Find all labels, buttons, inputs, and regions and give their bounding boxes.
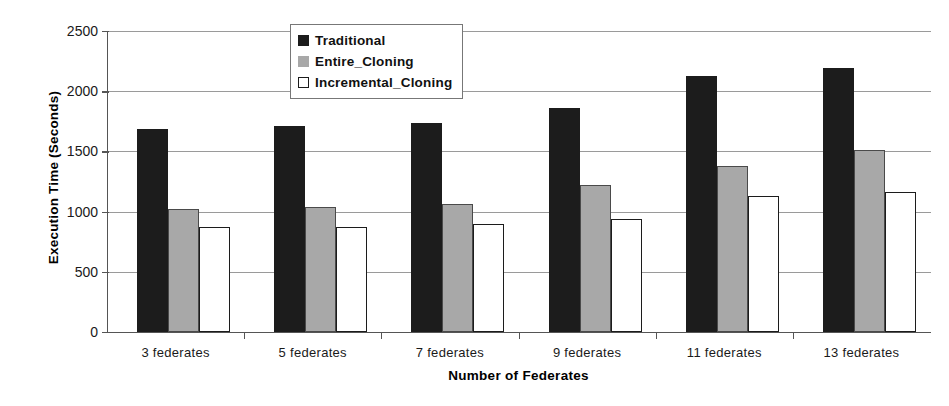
legend-item-label: Incremental_Cloning: [315, 75, 452, 90]
bar: [885, 192, 916, 332]
y-tick-label: 1000: [46, 205, 98, 219]
x-tick-mark: [656, 332, 657, 339]
bar: [854, 150, 885, 332]
x-axis-tick-labels: 3 federates5 federates7 federates9 feder…: [107, 345, 930, 360]
bar-group: [657, 31, 794, 332]
x-tick-mark: [519, 332, 520, 339]
bar-groups: [108, 31, 931, 332]
y-tick-label: 0: [46, 325, 98, 339]
x-tick-mark: [244, 332, 245, 339]
x-tick-label: 3 federates: [107, 345, 244, 360]
bar: [611, 219, 642, 332]
bar: [748, 196, 779, 332]
bar: [686, 76, 717, 332]
legend-item-label: Traditional: [315, 33, 385, 48]
bar-chart-figure: Execution Time (Seconds) 2500 2000 1500 …: [0, 0, 949, 406]
bar-group: [794, 31, 931, 332]
bar: [823, 68, 854, 332]
filled-gray-square-icon: [298, 56, 309, 67]
bar: [137, 129, 168, 332]
bar: [717, 166, 748, 332]
x-tick-label: 11 federates: [656, 345, 793, 360]
plot-area: [107, 31, 931, 332]
bar: [168, 209, 199, 332]
bar: [336, 227, 367, 332]
x-tick-label: 7 federates: [381, 345, 518, 360]
legend: Traditional Entire_Cloning Incremental_C…: [290, 24, 463, 99]
y-axis-tick-labels: 2500 2000 1500 1000 500 0: [38, 0, 98, 406]
outlined-white-square-icon: [298, 77, 309, 88]
x-tick-label: 5 federates: [244, 345, 381, 360]
bar-group-bars: [794, 31, 931, 332]
x-tick-mark: [793, 332, 794, 339]
legend-item: Entire_Cloning: [298, 51, 452, 72]
bar-group-bars: [108, 31, 245, 332]
y-tick-mark: [102, 332, 109, 333]
y-tick-label: 500: [46, 265, 98, 279]
legend-item-label: Entire_Cloning: [315, 54, 414, 69]
filled-black-square-icon: [298, 35, 309, 46]
bar: [305, 207, 336, 332]
x-axis-title: Number of Federates: [107, 368, 930, 383]
y-tick-label: 1500: [46, 144, 98, 158]
x-tick-label: 13 federates: [793, 345, 930, 360]
bar: [549, 108, 580, 332]
bar-group-bars: [657, 31, 794, 332]
bar-group: [520, 31, 657, 332]
bar: [580, 185, 611, 332]
x-tick-mark: [381, 332, 382, 339]
x-tick-label: 9 federates: [519, 345, 656, 360]
y-tick-label: 2500: [46, 24, 98, 38]
bar: [199, 227, 230, 332]
legend-item: Incremental_Cloning: [298, 72, 452, 93]
bar-group-bars: [520, 31, 657, 332]
legend-item: Traditional: [298, 30, 452, 51]
bar: [274, 126, 305, 332]
bar: [411, 123, 442, 332]
bar-group: [108, 31, 245, 332]
bar: [442, 204, 473, 332]
y-tick-label: 2000: [46, 84, 98, 98]
bar: [473, 224, 504, 332]
